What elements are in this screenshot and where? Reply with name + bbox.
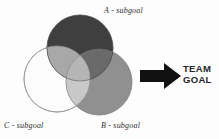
diagram-canvas: A - subgoal C - subgoal B - subgoal TEAM… xyxy=(0,0,219,139)
team-goal-line1: TEAM xyxy=(183,63,212,74)
label-b-subgoal: B - subgoal xyxy=(101,121,140,130)
team-goal-text: TEAM GOAL xyxy=(183,63,212,85)
venn-svg xyxy=(0,0,145,139)
right-arrow-icon xyxy=(140,62,182,90)
label-a-subgoal: A - subgoal xyxy=(104,6,143,15)
right-arrow-svg xyxy=(140,62,182,90)
venn-diagram xyxy=(0,0,145,139)
label-c-subgoal: C - subgoal xyxy=(4,121,44,130)
team-goal-line2: GOAL xyxy=(183,74,212,85)
